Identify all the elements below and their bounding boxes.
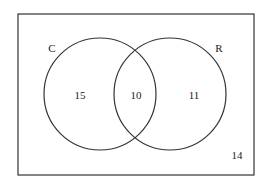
set-r-label: R <box>215 43 222 54</box>
region-neither: 14 <box>232 150 243 161</box>
region-c-only: 15 <box>75 90 86 101</box>
region-c-and-r: 10 <box>131 90 142 101</box>
set-c-label: C <box>48 43 55 54</box>
region-r-only: 11 <box>189 90 200 101</box>
